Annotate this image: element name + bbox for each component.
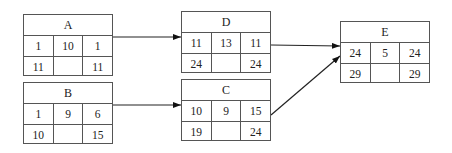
node-b-lf: 15 — [82, 125, 112, 144]
node-a-ef: 1 — [82, 36, 112, 56]
node-e-empty — [370, 64, 400, 83]
node-d-es: 11 — [182, 33, 211, 53]
node-b-ef: 6 — [82, 104, 112, 124]
node-a-lf: 11 — [82, 57, 112, 76]
node-c: C 10 9 15 19 24 — [181, 79, 271, 141]
node-e-lf: 29 — [399, 64, 429, 83]
node-a: A 1 10 1 11 11 — [23, 14, 113, 76]
node-d-label: D — [182, 12, 270, 33]
node-c-label: C — [182, 80, 270, 101]
node-e-ls: 29 — [341, 64, 370, 83]
node-d-ls: 24 — [182, 54, 211, 73]
edge-c-e — [271, 56, 340, 115]
node-e-label: E — [341, 22, 429, 43]
node-c-duration: 9 — [211, 101, 241, 121]
node-a-ls: 11 — [24, 57, 53, 76]
node-e: E 24 5 24 29 29 — [340, 21, 430, 83]
node-c-es: 10 — [182, 101, 211, 121]
node-b-duration: 9 — [53, 104, 83, 124]
node-b-label: B — [24, 83, 112, 104]
node-c-ef: 15 — [240, 101, 270, 121]
node-a-label: A — [24, 15, 112, 36]
node-b-empty — [53, 125, 83, 144]
node-d-duration: 13 — [211, 33, 241, 53]
node-b-es: 1 — [24, 104, 53, 124]
node-b-ls: 10 — [24, 125, 53, 144]
node-e-ef: 24 — [399, 43, 429, 63]
node-c-ls: 19 — [182, 122, 211, 141]
node-c-lf: 24 — [240, 122, 270, 141]
node-d-ef: 11 — [240, 33, 270, 53]
node-a-duration: 10 — [53, 36, 83, 56]
node-b: B 1 9 6 10 15 — [23, 82, 113, 144]
node-e-duration: 5 — [370, 43, 400, 63]
node-d: D 11 13 11 24 24 — [181, 11, 271, 73]
node-d-lf: 24 — [240, 54, 270, 73]
node-a-empty — [53, 57, 83, 76]
node-c-empty — [211, 122, 241, 141]
edge-d-e — [271, 45, 340, 46]
node-a-es: 1 — [24, 36, 53, 56]
node-e-es: 24 — [341, 43, 370, 63]
node-d-empty — [211, 54, 241, 73]
